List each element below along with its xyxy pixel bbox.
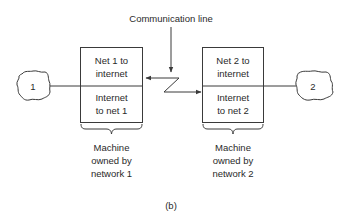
machine-network-1: Net 1 to internet Internet to net 1 <box>80 48 143 123</box>
bottom-section-line2: to net 2 <box>217 105 249 116</box>
cloud-label: 2 <box>310 81 315 92</box>
machine-network-2: Net 2 to internet Internet to net 2 <box>202 48 264 123</box>
owner-label-line1: Machine <box>94 142 130 153</box>
owner-label-line1: Machine <box>215 142 251 153</box>
top-section-line2: internet <box>96 68 128 79</box>
bottom-section-line2: to net 1 <box>96 105 128 116</box>
brace-network-1 <box>81 124 142 134</box>
brace-network-2 <box>203 124 263 134</box>
top-section-line2: internet <box>217 68 249 79</box>
owner-label-network-1: Machine owned by network 1 <box>91 142 132 179</box>
owner-label-line2: owned by <box>91 155 132 166</box>
top-section-line1: Net 1 to <box>95 55 128 66</box>
bottom-section-line1: Internet <box>95 92 128 103</box>
owner-label-line3: network 2 <box>212 168 253 179</box>
communication-line-zigzag <box>164 78 179 92</box>
cloud-label: 1 <box>30 81 35 92</box>
gateway-diagram: Communication line 1 Net 1 to internet I… <box>0 0 338 216</box>
network-1-cloud: 1 <box>17 71 50 100</box>
network-2-cloud: 2 <box>296 71 333 100</box>
owner-label-network-2: Machine owned by network 2 <box>212 142 253 179</box>
owner-label-line3: network 1 <box>91 168 132 179</box>
communication-line <box>146 78 201 92</box>
figure-caption: (b) <box>165 200 177 211</box>
bottom-section-line1: Internet <box>217 92 250 103</box>
top-section-line1: Net 2 to <box>216 55 249 66</box>
owner-label-line2: owned by <box>213 155 254 166</box>
communication-line-label: Communication line <box>129 13 212 24</box>
